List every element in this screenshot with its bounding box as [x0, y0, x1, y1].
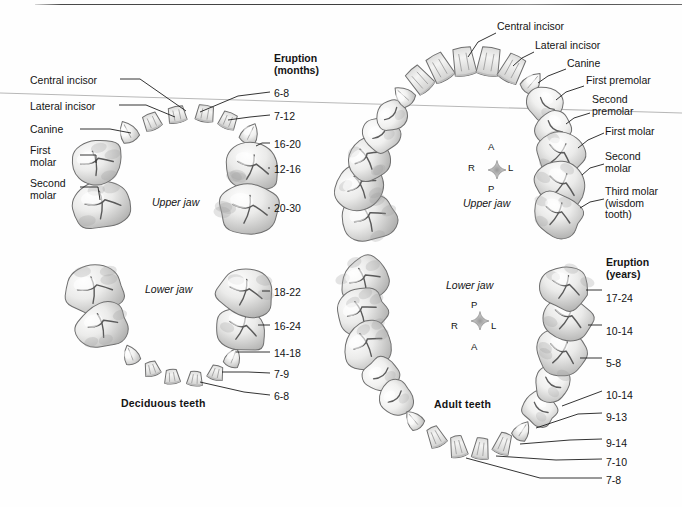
label-deciduous-central-incisor: Central incisor [30, 75, 97, 87]
deciduous-lower-eruption-0: 18-22 [274, 286, 301, 298]
deciduous-eruption-header-line2: (months) [274, 64, 319, 76]
scan-artifact-line [0, 93, 682, 113]
deciduous-upper-eruption-4: 20-30 [274, 202, 301, 214]
deciduous-eruption-header-line1: Eruption [274, 52, 317, 64]
adult-upper-jaw-label: Upper jaw [463, 198, 510, 210]
compass-upper-bottom: P [488, 183, 494, 195]
label-adult-second-molar: Second molar [605, 151, 641, 174]
adult-lower-eruption-1: 10-14 [606, 325, 633, 337]
compass-upper-left: R [468, 162, 475, 174]
compass-upper-right: L [508, 162, 513, 174]
deciduous-lower-eruption-3: 7-9 [274, 368, 289, 380]
label-deciduous-lateral-incisor: Lateral incisor [30, 101, 95, 113]
deciduous-upper-eruption-3: 12-16 [274, 163, 301, 175]
label-adult-first-premolar: First premolar [586, 75, 651, 87]
label-adult-third-molar: Third molar (wisdom tooth) [605, 186, 658, 221]
adult-lower-eruption-7: 7-8 [606, 474, 621, 486]
adult-lower-eruption-0: 17-24 [606, 292, 633, 304]
label-adult-first-molar: First molar [605, 126, 655, 138]
adult-eruption-header-line1: Eruption [606, 256, 649, 268]
adult-lower-eruption-3: 10-14 [606, 389, 633, 401]
label-deciduous-first-molar: First molar [30, 145, 56, 168]
deciduous-lower-eruption-4: 6-8 [274, 390, 289, 402]
compass-upper-top: A [488, 141, 494, 153]
label-adult-central-incisor: Central incisor [497, 21, 564, 33]
dentition-figure: Central incisor Lateral incisor Canine F… [0, 0, 682, 507]
deciduous-caption: Deciduous teeth [121, 398, 206, 410]
adult-lower-eruption-4: 9-13 [606, 411, 627, 423]
deciduous-lower-eruption-2: 14-18 [274, 347, 301, 359]
label-deciduous-second-molar: Second molar [30, 178, 66, 201]
deciduous-lower-jaw-label: Lower jaw [145, 284, 192, 296]
compass-lower-top: P [471, 299, 477, 311]
adult-caption: Adult teeth [434, 399, 491, 411]
deciduous-upper-eruption-1: 7-12 [274, 110, 295, 122]
tooth-illustrations [0, 0, 682, 507]
adult-lower-eruption-6: 7-10 [606, 456, 627, 468]
adult-lower-eruption-5: 9-14 [606, 437, 627, 449]
adult-eruption-header-line2: (years) [606, 268, 640, 280]
compass-lower-right: L [491, 320, 496, 332]
deciduous-upper-eruption-0: 6-8 [274, 87, 289, 99]
deciduous-upper-jaw-label: Upper jaw [152, 197, 199, 209]
adult-lower-eruption-2: 5-8 [606, 357, 621, 369]
adult-lower-jaw-label: Lower jaw [446, 280, 493, 292]
label-adult-canine: Canine [567, 58, 600, 70]
deciduous-lower-eruption-1: 16-24 [274, 320, 301, 332]
label-adult-lateral-incisor: Lateral incisor [535, 40, 600, 52]
label-adult-second-premolar: Second premolar [592, 94, 633, 117]
compass-lower-bottom: A [471, 341, 477, 353]
compass-lower-left: R [451, 320, 458, 332]
deciduous-upper-eruption-2: 16-20 [274, 138, 301, 150]
label-deciduous-canine: Canine [30, 124, 63, 136]
